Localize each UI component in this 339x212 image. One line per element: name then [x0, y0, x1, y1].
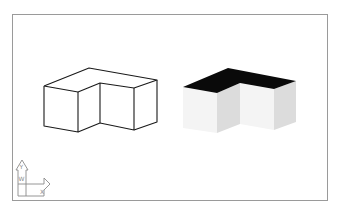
- shaded-right-face: [274, 81, 296, 130]
- ucs-x-label: X: [40, 188, 44, 195]
- model-space-canvas[interactable]: Y W X: [0, 0, 339, 212]
- ucs-icon: Y W X: [16, 160, 50, 196]
- ucs-w-label: W: [19, 175, 25, 182]
- wireframe-model[interactable]: [44, 68, 157, 132]
- wireframe-edge: [100, 88, 134, 130]
- wireframe-edge: [134, 80, 157, 130]
- drawing-viewport[interactable]: Y W X Y X W: [0, 0, 339, 212]
- ucs-y-label: Y: [19, 163, 24, 170]
- shaded-left-face: [183, 87, 217, 133]
- shaded-notch-face: [240, 83, 274, 130]
- wireframe-edge: [44, 86, 78, 132]
- shaded-model[interactable]: [183, 68, 296, 133]
